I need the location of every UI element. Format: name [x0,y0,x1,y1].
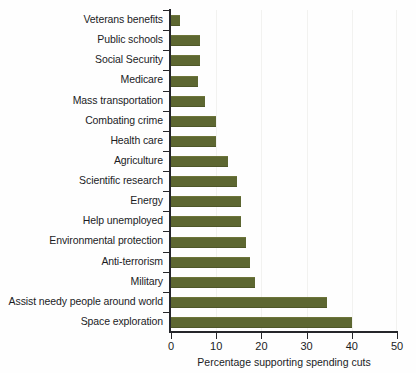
y-tick [163,91,170,92]
category-label: Space exploration [0,316,163,327]
x-tick-label: 0 [168,340,174,352]
category-label: Social Security [0,54,163,65]
y-tick [163,70,170,71]
x-tick-label: 50 [391,340,403,352]
bar [171,116,216,127]
y-tick [163,231,170,232]
bar [171,257,250,268]
bar [171,76,198,87]
y-tick [163,272,170,273]
x-tick-label: 40 [346,340,358,352]
bar-row [171,231,397,252]
x-tick [307,333,308,339]
y-axis-tick-labels: Veterans benefitsPublic schoolsSocial Se… [0,10,163,332]
bar [171,176,237,187]
x-tick-label: 10 [210,340,222,352]
bar-row [171,252,397,273]
bar [171,317,352,328]
bar [171,96,205,107]
bar-row [171,111,397,132]
bar-row [171,151,397,172]
y-tick [163,312,170,313]
category-label: Agriculture [0,155,163,166]
category-label: Military [0,276,163,287]
bar-row [171,131,397,152]
bar [171,35,200,46]
bar [171,297,327,308]
bar-row [171,191,397,212]
x-tick [216,333,217,339]
x-axis-line [169,331,398,333]
y-tick [163,151,170,152]
y-tick [163,131,170,132]
category-label: Medicare [0,74,163,85]
bar [171,136,216,147]
category-label: Environmental protection [0,235,163,246]
bar-row [171,50,397,71]
bar-row [171,91,397,112]
category-label: Anti-terrorism [0,256,163,267]
x-axis-title: Percentage supporting spending cuts [171,356,397,368]
category-label: Mass transportation [0,95,163,106]
bar [171,216,241,227]
y-tick [163,191,170,192]
y-tick [163,211,170,212]
bar-row [171,272,397,293]
x-tick [261,333,262,339]
category-label: Combating crime [0,115,163,126]
y-tick [163,252,170,253]
y-tick [163,111,170,112]
bar-row [171,70,397,91]
bar [171,156,228,167]
category-label: Scientific research [0,175,163,186]
x-tick-label: 30 [300,340,312,352]
bar-row [171,171,397,192]
category-label: Public schools [0,34,163,45]
y-tick [163,30,170,31]
y-tick [163,171,170,172]
bar [171,15,180,26]
bar [171,196,241,207]
category-label: Energy [0,195,163,206]
bar-row [171,30,397,51]
bar-row [171,211,397,232]
bar [171,237,246,248]
bar-chart: Veterans benefitsPublic schoolsSocial Se… [0,0,416,373]
x-tick [352,333,353,339]
category-label: Help unemployed [0,215,163,226]
y-tick [163,50,170,51]
category-label: Assist needy people around world [0,296,163,307]
bar-row [171,292,397,313]
y-tick [163,10,170,11]
x-tick-label: 20 [255,340,267,352]
x-tick [171,333,172,339]
category-label: Veterans benefits [0,14,163,25]
bar [171,277,255,288]
plot-area [171,10,397,332]
bar-row [171,10,397,31]
bar [171,55,200,66]
category-label: Health care [0,135,163,146]
x-tick [397,333,398,339]
y-tick [163,292,170,293]
